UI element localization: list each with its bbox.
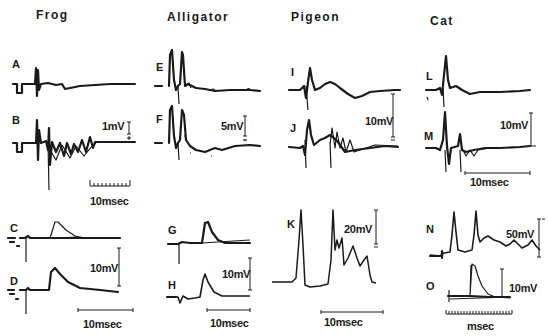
trace-n xyxy=(430,211,540,256)
trace-f-overlay xyxy=(178,136,212,160)
trace-f xyxy=(169,106,260,152)
trace-l xyxy=(426,56,530,95)
trace-d xyxy=(8,268,118,292)
trace-e-overlay xyxy=(178,83,250,104)
scale-bar-alligator-10mv xyxy=(248,258,252,290)
trace-i xyxy=(289,68,400,98)
scale-bar-alligator-5mv xyxy=(243,116,247,141)
traces-svg xyxy=(0,0,548,336)
scale-bar-pigeon-20mv xyxy=(374,210,378,247)
electrophysiology-figure: Frog Alligator Pigeon Cat A B C D E F G … xyxy=(0,0,548,336)
trace-b xyxy=(13,120,135,165)
trace-a xyxy=(13,68,135,96)
scale-bar-cat-10mv-top xyxy=(529,113,536,146)
scale-bar-cat-50mv xyxy=(537,219,545,257)
trace-d-pulse xyxy=(10,294,18,299)
scale-bar-alligator-10msec xyxy=(207,308,250,312)
scale-bar-frog-10msec-ticks xyxy=(90,180,130,186)
scale-bar-pigeon-10msec xyxy=(321,310,383,314)
scale-bar-cat-msec-ticks xyxy=(446,310,512,314)
scale-bar-frog-10msec-bottom xyxy=(78,308,133,312)
trace-h xyxy=(167,274,250,303)
scale-bar-cat-10msec xyxy=(465,171,530,175)
trace-c-pulse xyxy=(10,242,19,246)
scale-bar-frog-10mv xyxy=(117,248,121,286)
trace-k xyxy=(272,210,376,287)
scale-bar-cat-o-10mv xyxy=(500,269,504,297)
trace-j-overlay xyxy=(305,128,398,168)
trace-m xyxy=(426,112,530,164)
trace-c xyxy=(26,222,120,262)
scale-bar-pigeon-10mv xyxy=(391,94,395,140)
scale-bar-frog-1mv xyxy=(127,122,131,140)
trace-e xyxy=(169,50,260,91)
